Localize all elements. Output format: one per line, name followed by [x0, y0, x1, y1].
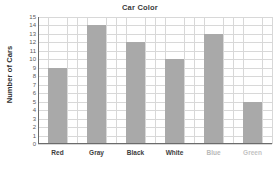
gridline-vertical — [184, 17, 185, 144]
y-axis-tick-label: 14 — [22, 22, 36, 28]
x-axis-line — [38, 143, 272, 145]
x-axis-tick-label: Green — [233, 148, 272, 157]
y-axis-tick-label: 5 — [22, 99, 36, 105]
gridline-vertical — [262, 17, 263, 144]
y-axis-tick-label: 9 — [22, 65, 36, 71]
gridline-vertical — [194, 17, 195, 144]
gridline-vertical — [145, 17, 146, 144]
x-axis-tick-label: Red — [38, 148, 77, 157]
gridline-vertical — [233, 17, 234, 144]
y-axis-tick-label: 10 — [22, 56, 36, 62]
y-axis-line — [38, 17, 39, 144]
gridline-vertical — [77, 17, 78, 144]
bar-blue — [204, 34, 224, 144]
x-axis-tick-label: White — [155, 148, 194, 157]
x-axis-tick-label: Black — [116, 148, 155, 157]
gridline-vertical — [155, 17, 156, 144]
gridline-vertical — [67, 17, 68, 144]
bar-white — [165, 59, 185, 144]
bar-green — [243, 102, 263, 144]
gridline-vertical — [223, 17, 224, 144]
y-axis-tick-labels: 1514131211109876543210 — [20, 17, 36, 144]
gridline-vertical — [272, 17, 273, 144]
gridline-vertical — [106, 17, 107, 144]
y-axis-tick-label: 15 — [22, 14, 36, 20]
bar-black — [126, 42, 146, 144]
gridline-vertical — [116, 17, 117, 144]
bar-red — [48, 68, 68, 144]
y-axis-tick-label: 13 — [22, 31, 36, 37]
y-axis-title: Number of Cars — [5, 35, 14, 115]
y-axis-tick-label: 3 — [22, 116, 36, 122]
y-axis-tick-label: 11 — [22, 48, 36, 54]
plot-area — [38, 17, 272, 144]
y-axis-tick-label: 7 — [22, 82, 36, 88]
y-axis-tick-label: 0 — [22, 141, 36, 147]
y-axis-tick-label: 12 — [22, 39, 36, 45]
y-axis-tick-label: 8 — [22, 73, 36, 79]
chart-title: Car Color — [0, 3, 280, 12]
y-axis-tick-label: 2 — [22, 124, 36, 130]
bar-chart: Car Color Number of Cars 151413121110987… — [0, 0, 280, 171]
x-axis-tick-label: Gray — [77, 148, 116, 157]
x-axis-tick-label: Blue — [194, 148, 233, 157]
y-axis-tick-label: 1 — [22, 133, 36, 139]
bar-gray — [87, 25, 107, 144]
gridline-horizontal — [38, 144, 272, 145]
y-axis-tick-label: 6 — [22, 90, 36, 96]
x-axis-tick-labels: RedGrayBlackWhiteBlueGreen — [38, 148, 272, 162]
y-axis-tick-label: 4 — [22, 107, 36, 113]
